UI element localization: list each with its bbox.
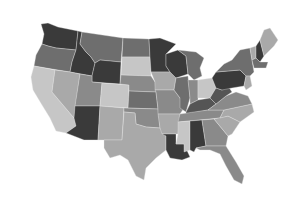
state-ar[interactable] — [158, 114, 180, 134]
states-group — [31, 23, 278, 184]
us-choropleth-map — [0, 0, 296, 200]
state-sd[interactable] — [121, 57, 151, 76]
state-nd[interactable] — [122, 38, 150, 57]
state-ks[interactable] — [128, 91, 158, 109]
state-co[interactable] — [100, 83, 129, 108]
state-pa[interactable] — [212, 70, 246, 90]
state-nm[interactable] — [98, 106, 124, 140]
state-fl[interactable] — [196, 146, 244, 184]
state-wy[interactable] — [92, 60, 121, 84]
state-in[interactable] — [188, 80, 198, 104]
